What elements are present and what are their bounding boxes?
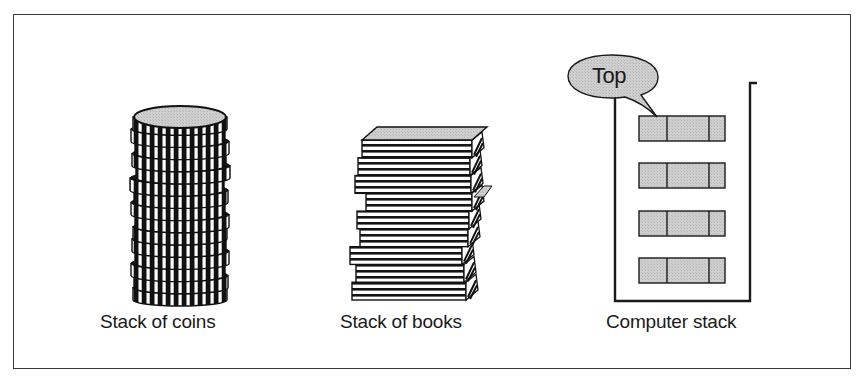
book-top-cover xyxy=(362,127,487,140)
caption-stack-of-books: Stack of books xyxy=(340,311,462,333)
stack-element xyxy=(639,163,725,188)
caption-stack-of-coins: Stack of coins xyxy=(100,311,215,333)
top-pointer-label: Top xyxy=(592,63,626,89)
stack-element xyxy=(639,116,725,141)
stack-element xyxy=(639,258,725,283)
stack-element xyxy=(639,211,725,236)
book-stack-illustration xyxy=(350,127,492,300)
computer-stack-illustration xyxy=(568,55,757,301)
stack-elements xyxy=(639,116,725,283)
coin-top-face xyxy=(134,106,226,128)
coin-stack-illustration xyxy=(130,106,230,306)
caption-computer-stack: Computer stack xyxy=(606,311,736,333)
